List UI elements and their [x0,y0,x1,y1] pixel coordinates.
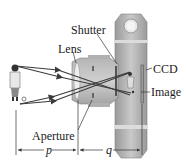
ccd-sensor-icon [141,65,144,103]
aperture-top-icon [92,66,94,71]
camera-diagram: Shutter Lens CCD Image Aperture p q [0,0,186,165]
label-aperture: Aperture [32,130,75,142]
aperture-bottom-icon [92,93,94,98]
label-p: p [46,144,52,156]
label-image: Image [151,86,181,98]
label-ccd: CCD [153,63,178,75]
object-person-icon [10,65,26,102]
label-shutter: Shutter [71,24,106,36]
ball-icon [22,97,26,101]
label-q: q [106,144,112,156]
label-lens: Lens [58,43,81,55]
shutter-icon [115,66,117,96]
